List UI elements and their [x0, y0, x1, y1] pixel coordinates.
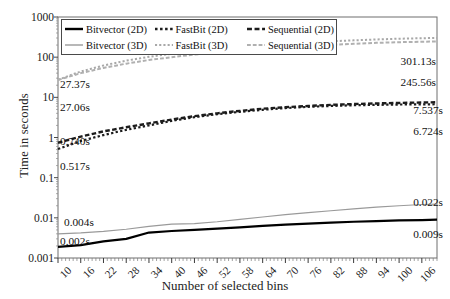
legend-label: Bitvector (3D) [86, 40, 147, 51]
legend-item: FastBit (2D) [154, 24, 246, 35]
legend-row: Bitvector (3D)FastBit (3D)Sequential (3D… [64, 37, 334, 53]
chart-legend: Bitvector (2D)FastBit (2D)Sequential (2D… [61, 19, 337, 55]
legend-label: Sequential (3D) [268, 40, 334, 51]
chart-figure: Time in seconds 10001001010.10.010.001 1… [0, 0, 450, 299]
value-annotation: 0.002s [60, 235, 90, 247]
value-annotation: 301.13s [386, 55, 436, 67]
legend-item: Bitvector (3D) [64, 40, 154, 51]
legend-label: Bitvector (2D) [86, 24, 147, 35]
legend-label: Sequential (2D) [268, 24, 334, 35]
legend-line-swatch [154, 24, 174, 34]
legend-line-swatch [64, 40, 84, 50]
value-annotation: 0.004s [64, 216, 94, 228]
legend-label: FastBit (2D) [176, 24, 228, 35]
value-annotation: 245.56s [386, 76, 436, 88]
value-annotation: 0.022s [393, 196, 443, 208]
legend-line-swatch [246, 40, 266, 50]
value-annotation: 27.37s [60, 78, 90, 90]
value-annotation: 0.517s [60, 160, 90, 172]
value-annotation: 6.724s [393, 125, 443, 137]
value-annotation: 0.009s [393, 228, 443, 240]
legend-row: Bitvector (2D)FastBit (2D)Sequential (2D… [64, 21, 334, 37]
legend-item: Bitvector (2D) [64, 24, 154, 35]
legend-line-swatch [64, 24, 84, 34]
value-annotation: 7.537s [393, 104, 443, 116]
legend-item: FastBit (3D) [154, 40, 246, 51]
legend-line-swatch [246, 24, 266, 34]
legend-item: Sequential (2D) [246, 24, 334, 35]
value-annotation: 27.06s [60, 101, 90, 113]
legend-label: FastBit (3D) [176, 40, 228, 51]
value-annotation: 0.740s [60, 135, 90, 147]
legend-line-swatch [154, 40, 174, 50]
legend-item: Sequential (3D) [246, 40, 334, 51]
